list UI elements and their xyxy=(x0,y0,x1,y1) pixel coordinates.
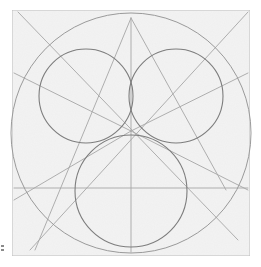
edge-mark xyxy=(1,249,4,251)
edge-mark xyxy=(1,245,4,247)
pencil-drawing xyxy=(0,0,261,267)
